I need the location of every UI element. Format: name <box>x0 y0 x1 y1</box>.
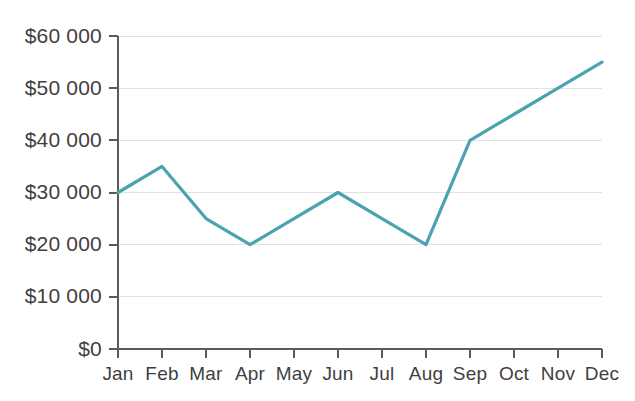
chart-canvas: $0$10 000$20 000$30 000$40 000$50 000$60… <box>0 0 635 401</box>
x-tick-label: Apr <box>235 363 266 384</box>
gridlines <box>118 36 602 297</box>
y-tick-label: $50 000 <box>25 76 102 99</box>
x-tick-label: Jul <box>370 363 395 384</box>
y-tick-label: $40 000 <box>25 128 102 151</box>
x-tick-label: Mar <box>189 363 223 384</box>
y-tick-label: $0 <box>78 337 102 360</box>
x-tick-label: Sep <box>453 363 487 384</box>
x-tick-label: Oct <box>499 363 530 384</box>
x-tick-label: Nov <box>541 363 576 384</box>
x-axis-ticks <box>118 349 602 358</box>
series-line-revenue <box>118 62 602 245</box>
line-chart: $0$10 000$20 000$30 000$40 000$50 000$60… <box>0 0 635 401</box>
x-axis-labels: JanFebMarAprMayJunJulAugSepOctNovDec <box>102 363 619 384</box>
x-tick-label: Dec <box>585 363 619 384</box>
y-tick-label: $60 000 <box>25 24 102 47</box>
x-tick-label: Jan <box>102 363 133 384</box>
y-tick-label: $10 000 <box>25 284 102 307</box>
y-axis-labels: $0$10 000$20 000$30 000$40 000$50 000$60… <box>25 24 102 360</box>
x-tick-label: Aug <box>409 363 443 384</box>
x-tick-label: Feb <box>145 363 178 384</box>
y-tick-label: $30 000 <box>25 180 102 203</box>
x-tick-label: Jun <box>322 363 353 384</box>
x-tick-label: May <box>276 363 313 384</box>
y-tick-label: $20 000 <box>25 232 102 255</box>
